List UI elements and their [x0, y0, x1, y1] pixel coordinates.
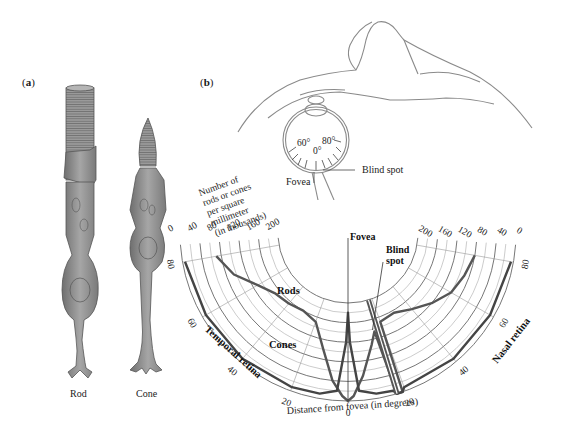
angle-tick-label: 60	[497, 316, 511, 329]
radial-tick-label-left: 0	[166, 223, 175, 234]
radial-tick-label-right: 0	[515, 225, 524, 236]
radial-tick-label-right: 120	[456, 224, 474, 240]
grid-spoke	[393, 287, 456, 362]
angle-tick-label: 40	[457, 364, 471, 378]
grid-spoke	[183, 245, 280, 262]
nasal-retina-label: Nasal retina	[490, 315, 533, 365]
series-line-rods	[216, 255, 475, 401]
cones-series-label: Cones	[269, 339, 296, 350]
grid-spoke	[417, 245, 514, 262]
x-axis-label: Distance from fovea (in degrees)	[286, 396, 418, 417]
angle-tick-label: 80	[165, 259, 177, 270]
blind-spot-annotation: Blind	[386, 244, 410, 255]
radial-tick-label-left: 40	[186, 220, 199, 234]
radial-tick-label-right: 40	[495, 225, 508, 239]
rods-series-label: Rods	[277, 285, 300, 296]
radial-tick-label-right: 160	[437, 224, 455, 240]
blind-spot-annotation: spot	[386, 255, 404, 266]
angle-tick-label: 80	[520, 258, 532, 269]
angle-tick-label: 60	[185, 316, 199, 329]
radial-tick-label-right: 200	[417, 223, 435, 239]
fovea-annotation: Fovea	[350, 231, 376, 242]
grid-spoke	[240, 287, 303, 362]
angle-tick-label: 40	[225, 364, 239, 378]
photoreceptor-density-chart: 0040408080120120160160200200806040200204…	[0, 0, 576, 439]
radial-tick-label-right: 80	[476, 224, 489, 238]
